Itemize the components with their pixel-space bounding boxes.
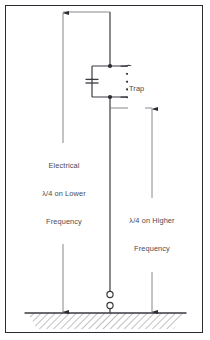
lower-frequency-label-line1: Electrical xyxy=(28,161,100,170)
higher-frequency-label-line2: Frequency xyxy=(113,244,191,253)
trap-label: Trap xyxy=(128,66,145,112)
trap-antenna-figure: Trap Electrical λ/4 on Lower Frequency λ… xyxy=(0,0,210,340)
trap-top-junction-dot xyxy=(108,64,112,68)
lower-frequency-label: Electrical λ/4 on Lower Frequency xyxy=(28,143,100,244)
feedpoint-terminals xyxy=(107,291,113,308)
ground-plane xyxy=(25,313,186,329)
higher-frequency-label: λ/4 on Higher Frequency xyxy=(113,198,191,272)
parallel-lc-trap xyxy=(86,64,134,99)
lower-frequency-label-line2: λ/4 on Lower xyxy=(28,189,100,198)
higher-frequency-label-line1: λ/4 on Higher xyxy=(113,216,191,225)
trap-label-text: Trap xyxy=(129,84,144,93)
lower-frequency-label-line3: Frequency xyxy=(28,217,100,226)
feedpoint-terminal-upper xyxy=(107,291,113,297)
feedpoint-terminal-lower xyxy=(107,302,113,308)
